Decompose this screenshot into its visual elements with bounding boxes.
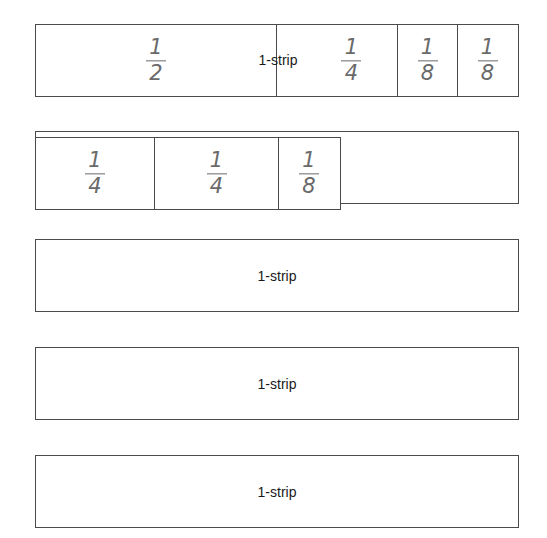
strip-label: 1-strip xyxy=(36,268,518,284)
piece-one-half: 1 2 xyxy=(36,25,277,96)
denominator: 4 xyxy=(88,176,101,197)
fraction-one-eighth: 1 8 xyxy=(299,150,319,197)
fraction-strip-3: 1-strip xyxy=(35,239,519,312)
denominator: 8 xyxy=(421,63,434,84)
piece-one-eighth: 1 8 xyxy=(458,25,517,96)
denominator: 4 xyxy=(345,63,358,84)
strip-label: 1-strip xyxy=(36,484,518,500)
numerator: 1 xyxy=(302,150,315,172)
denominator: 8 xyxy=(481,63,494,84)
numerator: 1 xyxy=(210,150,223,172)
numerator: 1 xyxy=(149,37,162,59)
denominator: 8 xyxy=(302,176,315,197)
piece-one-quarter: 1 4 xyxy=(155,138,279,209)
piece-one-eighth: 1 8 xyxy=(279,138,339,209)
fraction-one-eighth: 1 8 xyxy=(478,37,498,84)
fraction-one-eighth: 1 8 xyxy=(418,37,438,84)
fraction-one-half: 1 2 xyxy=(146,37,166,84)
strip-label: 1-strip xyxy=(259,52,298,68)
fraction-one-quarter: 1 4 xyxy=(207,150,227,197)
fraction-one-quarter: 1 4 xyxy=(341,37,361,84)
fraction-one-quarter: 1 4 xyxy=(85,150,105,197)
denominator: 2 xyxy=(149,63,162,84)
denominator: 4 xyxy=(210,176,223,197)
numerator: 1 xyxy=(421,37,434,59)
fraction-pieces-overlay: 1 4 1 4 1 8 xyxy=(35,137,341,210)
piece-one-eighth: 1 8 xyxy=(398,25,458,96)
fraction-strip-4: 1-strip xyxy=(35,347,519,420)
numerator: 1 xyxy=(88,150,101,172)
fraction-strip-5: 1-strip xyxy=(35,455,519,528)
piece-one-quarter: 1 4 xyxy=(36,138,155,209)
numerator: 1 xyxy=(481,37,494,59)
numerator: 1 xyxy=(345,37,358,59)
strip-label: 1-strip xyxy=(36,376,518,392)
